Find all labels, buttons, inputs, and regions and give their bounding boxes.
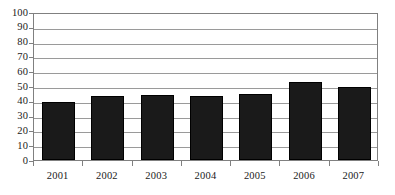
x-axis-tick-mark [230, 161, 231, 166]
x-axis-tick-mark [329, 161, 330, 166]
y-axis-tick-label: 70 [0, 52, 28, 62]
y-axis-tick-label: 30 [0, 111, 28, 121]
y-axis-tick-label: 20 [0, 126, 28, 136]
bar [239, 94, 272, 160]
y-axis-tick-label: 60 [0, 67, 28, 77]
y-axis-tick-label: 80 [0, 37, 28, 47]
x-axis-tick-mark [33, 161, 34, 166]
bar [289, 82, 322, 160]
y-axis: 0102030405060708090100 [0, 0, 33, 195]
y-axis-tick-label: 50 [0, 82, 28, 92]
x-axis-tick-mark [378, 161, 379, 166]
x-axis-tick-label: 2003 [131, 170, 181, 182]
y-axis-tick-label: 90 [0, 22, 28, 32]
y-axis-tick-label: 40 [0, 96, 28, 106]
x-axis-tick-label: 2005 [230, 170, 280, 182]
y-axis-tick-label: 0 [0, 156, 28, 166]
bar [91, 96, 124, 160]
x-axis-ticks [33, 161, 378, 166]
x-axis-tick-label: 2001 [33, 170, 83, 182]
bar [190, 96, 223, 160]
x-axis-tick-mark [279, 161, 280, 166]
x-axis-tick-mark [132, 161, 133, 166]
x-axis-tick-mark [82, 161, 83, 166]
x-axis-tick-label: 2007 [328, 170, 378, 182]
bars-layer [34, 14, 377, 160]
bar [338, 87, 371, 160]
plot-area [33, 13, 378, 161]
y-axis-tick-label: 100 [0, 8, 28, 18]
x-axis-tick-label: 2002 [82, 170, 132, 182]
x-axis: 2001200220032004200520062007 [33, 170, 378, 188]
bar [141, 95, 174, 160]
x-axis-tick-label: 2006 [279, 170, 329, 182]
y-axis-tick-label: 10 [0, 141, 28, 151]
bar [42, 102, 75, 160]
x-axis-tick-mark [181, 161, 182, 166]
x-axis-tick-label: 2004 [181, 170, 231, 182]
bar-chart: 0102030405060708090100 20012002200320042… [0, 0, 395, 195]
